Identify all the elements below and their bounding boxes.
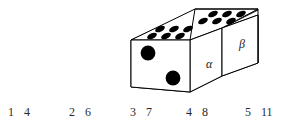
number-right: 7 — [146, 105, 152, 120]
pip — [166, 71, 181, 86]
number-right: 6 — [85, 105, 91, 120]
number-pair: 511 — [245, 105, 273, 123]
number-left: 2 — [69, 105, 85, 120]
pip — [141, 46, 156, 61]
number-pair: 26 — [69, 105, 91, 123]
number-right: 4 — [24, 105, 30, 120]
number-left: 3 — [130, 105, 146, 120]
front-end-face-overlay — [131, 40, 190, 92]
number-pair: 14 — [8, 105, 30, 123]
number-pair: 37 — [130, 105, 152, 123]
number-left: 1 — [8, 105, 24, 120]
number-left: 5 — [245, 105, 261, 120]
face-label-beta: β — [239, 38, 245, 50]
number-right: 11 — [261, 105, 273, 120]
number-right: 8 — [202, 105, 208, 120]
figure-root: α β 14 26 37 48 511 — [0, 0, 284, 130]
number-pair: 48 — [186, 105, 208, 123]
number-row: 14 26 37 48 511 — [0, 105, 284, 125]
number-left: 4 — [186, 105, 202, 120]
face-label-alpha: α — [206, 58, 212, 70]
